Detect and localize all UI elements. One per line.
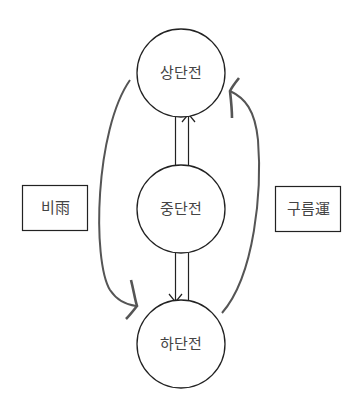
node-top-label: 상단전	[160, 64, 202, 82]
curved-arrowhead-icon	[230, 78, 239, 118]
label-right-text: 구름運	[287, 200, 330, 218]
edge-bottom-to-top-right	[222, 78, 259, 313]
edge-top-to-bottom-left	[99, 80, 137, 319]
node-bottom-label: 하단전	[160, 335, 202, 353]
node-middle: 중단전	[137, 165, 225, 253]
diagram-canvas: 상단전 중단전 하단전 비雨 구름運	[0, 0, 360, 408]
node-middle-label: 중단전	[160, 200, 202, 218]
node-bottom: 하단전	[137, 300, 225, 388]
curved-arrowhead-icon	[126, 280, 137, 319]
edge-middle-to-top	[176, 114, 196, 165]
node-top: 상단전	[137, 29, 225, 117]
label-box-left: 비雨	[23, 186, 88, 231]
label-left-text: 비雨	[41, 199, 70, 217]
edge-middle-to-bottom	[169, 253, 189, 302]
label-box-right: 구름運	[276, 187, 341, 232]
